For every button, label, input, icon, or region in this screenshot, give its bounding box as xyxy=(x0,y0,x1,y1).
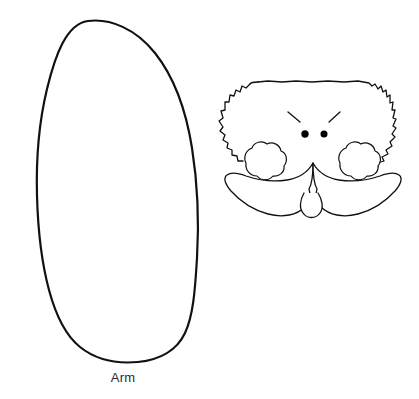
eyebrow-left-icon xyxy=(288,112,300,122)
santa-chin xyxy=(300,193,322,218)
cheek-right-icon xyxy=(339,142,381,180)
eye-right-icon xyxy=(321,131,328,138)
eye-left-icon xyxy=(301,130,308,137)
eyebrow-right-icon xyxy=(329,112,340,122)
santa-face-piece[interactable] xyxy=(0,0,419,399)
template-canvas: Arm xyxy=(0,0,419,399)
chin-icon xyxy=(300,193,322,218)
santa-eyebrows xyxy=(288,112,340,122)
cheek-left-icon xyxy=(245,142,287,180)
santa-eyes xyxy=(301,130,327,137)
